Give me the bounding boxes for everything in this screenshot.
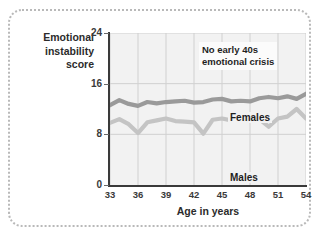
x-tick-label-54: 54 xyxy=(296,189,316,200)
x-axis-title: Age in years xyxy=(110,205,306,217)
y-axis-title-line-3: score xyxy=(16,58,94,72)
x-tick-label-45: 45 xyxy=(212,189,232,200)
x-tick-label-36: 36 xyxy=(128,189,148,200)
y-tick-label-0: 0 xyxy=(80,179,102,190)
y-tick-mark-24 xyxy=(104,33,109,34)
y-tick-mark-8 xyxy=(104,134,109,135)
y-axis-line xyxy=(108,32,110,187)
x-axis-line xyxy=(108,185,307,187)
chart-figure: Emotional instability score Females Male… xyxy=(0,0,327,241)
series-line-males xyxy=(110,109,306,134)
x-tick-label-48: 48 xyxy=(240,189,260,200)
annotation-line-2: emotional crisis xyxy=(202,56,274,68)
x-tick-label-51: 51 xyxy=(268,189,288,200)
series-label-males: Males xyxy=(228,172,260,183)
x-tick-label-33: 33 xyxy=(100,189,120,200)
series-lines xyxy=(110,94,306,134)
series-line-females xyxy=(110,94,306,106)
x-tick-label-39: 39 xyxy=(156,189,176,200)
y-tick-label-24: 24 xyxy=(80,27,102,38)
annotation-line-1: No early 40s xyxy=(202,44,274,56)
y-tick-mark-0 xyxy=(104,185,109,186)
y-tick-label-16: 16 xyxy=(80,78,102,89)
y-tick-mark-16 xyxy=(104,84,109,85)
annotation-no-early-40s-crisis: No early 40s emotional crisis xyxy=(199,42,277,70)
y-axis-title-line-2: instability xyxy=(16,45,94,59)
x-tick-label-42: 42 xyxy=(184,189,204,200)
series-label-females: Females xyxy=(228,112,272,123)
y-tick-label-8: 8 xyxy=(80,128,102,139)
